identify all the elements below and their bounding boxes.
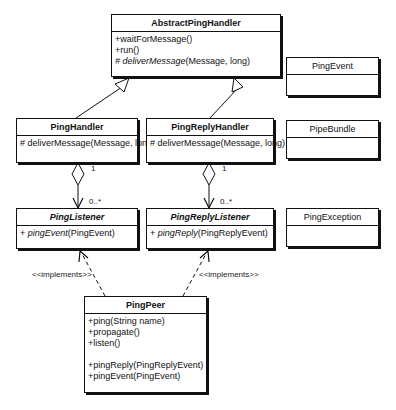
operations: +waitForMessage() +run() # deliverMessag… xyxy=(112,32,280,69)
class-ping-event[interactable]: PingEvent xyxy=(286,57,379,96)
class-pipe-bundle[interactable]: PipeBundle xyxy=(286,120,379,159)
operations: # deliverMessage(Message, long) xyxy=(147,136,273,151)
operation: +listen() xyxy=(88,338,203,349)
class-name: PingReplyHandler xyxy=(147,119,273,136)
operation: +waitForMessage() xyxy=(115,34,277,45)
class-name: AbstractPingHandler xyxy=(112,15,280,32)
multiplicity-label: 1 xyxy=(222,164,226,173)
class-name: PingException xyxy=(287,209,378,226)
interface-name: PingListener xyxy=(17,209,137,226)
operation: +ping(String name) xyxy=(88,316,203,327)
class-abstract-ping-handler[interactable]: AbstractPingHandler +waitForMessage() +r… xyxy=(111,14,281,77)
interface-ping-reply-listener[interactable]: PingReplyListener + pingReply(PingReplyE… xyxy=(146,208,274,249)
interface-name: PingReplyListener xyxy=(147,209,273,226)
class-name: PingPeer xyxy=(85,297,206,314)
class-ping-reply-handler[interactable]: PingReplyHandler # deliverMessage(Messag… xyxy=(146,118,274,163)
operations: + pingReply(PingReplyEvent) xyxy=(147,226,273,241)
inheritance-arrowhead xyxy=(232,78,243,92)
operation: # deliverMessage(Message, long) xyxy=(150,138,270,149)
class-name: PingEvent xyxy=(287,58,378,75)
operation: # deliverMessage(Message, long) xyxy=(115,56,277,67)
operation: +run() xyxy=(115,45,277,56)
operation: + pingEvent(PingEvent) xyxy=(20,228,134,239)
interface-ping-listener[interactable]: PingListener + pingEvent(PingEvent) xyxy=(16,208,138,249)
operations: + pingEvent(PingEvent) xyxy=(17,226,137,241)
class-name: PingHandler xyxy=(17,119,137,136)
multiplicity-label: 0..* xyxy=(89,197,101,206)
operation: +pingEvent(PingEvent) xyxy=(88,371,203,382)
implements-stereotype: <<implements>> xyxy=(32,270,92,279)
operations: # deliverMessage(Message, long) xyxy=(17,136,137,151)
class-ping-exception[interactable]: PingException xyxy=(286,208,379,247)
multiplicity-label: 0..* xyxy=(220,197,232,206)
class-ping-peer[interactable]: PingPeer +ping(String name) +propagate()… xyxy=(84,296,207,393)
multiplicity-label: 1 xyxy=(91,164,95,173)
class-ping-handler[interactable]: PingHandler # deliverMessage(Message, lo… xyxy=(16,118,138,163)
aggregation-diamond xyxy=(72,163,84,185)
class-name: PipeBundle xyxy=(287,121,378,138)
operations: +ping(String name) +propagate() +listen(… xyxy=(85,314,206,384)
operation: +propagate() xyxy=(88,327,203,338)
operation: + pingReply(PingReplyEvent) xyxy=(150,228,270,239)
implements-stereotype: <<implements>> xyxy=(199,270,259,279)
operation: +pingReply(PingReplyEvent) xyxy=(88,360,203,371)
operation: # deliverMessage(Message, long) xyxy=(20,138,134,149)
aggregation-diamond xyxy=(203,163,215,185)
